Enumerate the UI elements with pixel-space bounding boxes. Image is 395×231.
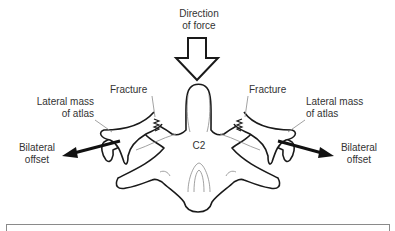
dens-inner-right xyxy=(207,95,210,132)
lateral-mass-right-line-2: of atlas xyxy=(306,108,376,120)
lower-curve-left xyxy=(160,171,170,176)
dens-inner-left xyxy=(187,95,190,132)
offset-arrowhead-left-icon xyxy=(62,147,78,158)
direction-line-2: of force xyxy=(174,20,224,32)
direction-line-1: Direction xyxy=(174,8,224,20)
lateral-mass-right-line-1: Lateral mass xyxy=(306,96,376,108)
diagram-stage: Direction of force Fracture Fracture Lat… xyxy=(0,0,395,231)
direction-of-force-label: Direction of force xyxy=(174,8,224,32)
offset-right-line-2: offset xyxy=(336,154,382,166)
c2-label: C2 xyxy=(187,140,211,152)
offset-left-line-2: offset xyxy=(14,154,60,166)
offset-arrowhead-right-icon xyxy=(318,147,334,158)
lateral-mass-left-label: Lateral mass of atlas xyxy=(30,96,94,120)
bilateral-offset-left-label: Bilateral offset xyxy=(14,142,60,166)
force-arrow-icon xyxy=(176,38,218,80)
spinous-process xyxy=(188,163,210,192)
fracture-left-label: Fracture xyxy=(110,84,147,96)
lateral-mass-right-leader xyxy=(288,120,305,132)
fracture-right-leader xyxy=(245,96,248,117)
offset-arrow-right xyxy=(278,141,322,153)
lateral-mass-left-line-1: Lateral mass xyxy=(30,96,94,108)
lateral-mass-right xyxy=(234,112,295,164)
offset-left-line-1: Bilateral xyxy=(14,142,60,154)
fracture-right-label: Fracture xyxy=(249,84,286,96)
bilateral-offset-right-label: Bilateral offset xyxy=(336,142,382,166)
offset-right-line-1: Bilateral xyxy=(336,142,382,154)
spinous-inner xyxy=(194,170,204,192)
lateral-mass-left xyxy=(101,112,162,164)
lower-curve-right xyxy=(226,171,236,176)
caption-box xyxy=(6,224,390,231)
lateral-mass-right-label: Lateral mass of atlas xyxy=(306,96,376,120)
lateral-mass-left-line-2: of atlas xyxy=(30,108,94,120)
